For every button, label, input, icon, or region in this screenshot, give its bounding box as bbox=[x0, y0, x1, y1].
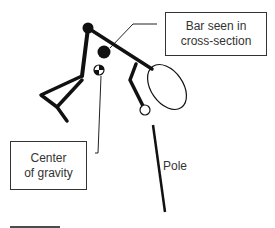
cog-label-line2: of gravity bbox=[24, 166, 73, 181]
bar-label-line2: cross-section bbox=[181, 34, 252, 49]
center-of-gravity-icon bbox=[94, 65, 104, 75]
torso-line bbox=[82, 28, 88, 76]
bar-leader-line bbox=[110, 24, 157, 48]
pole-label: Pole bbox=[163, 159, 187, 173]
bar-cross-section-icon bbox=[98, 46, 111, 59]
arm-line bbox=[88, 28, 152, 69]
inner-arm-line bbox=[130, 64, 143, 106]
leg-line bbox=[41, 76, 82, 107]
bar-label-box: Bar seen in cross-section bbox=[165, 12, 267, 56]
cog-label-line1: Center bbox=[24, 151, 73, 166]
lower-leg-line bbox=[57, 107, 67, 121]
head-icon bbox=[83, 23, 94, 34]
bar-label-line1: Bar seen in bbox=[181, 19, 252, 34]
cog-label-box: Center of gravity bbox=[10, 141, 87, 190]
cog-leader-line bbox=[95, 76, 101, 153]
foot-circle-icon bbox=[140, 105, 150, 115]
